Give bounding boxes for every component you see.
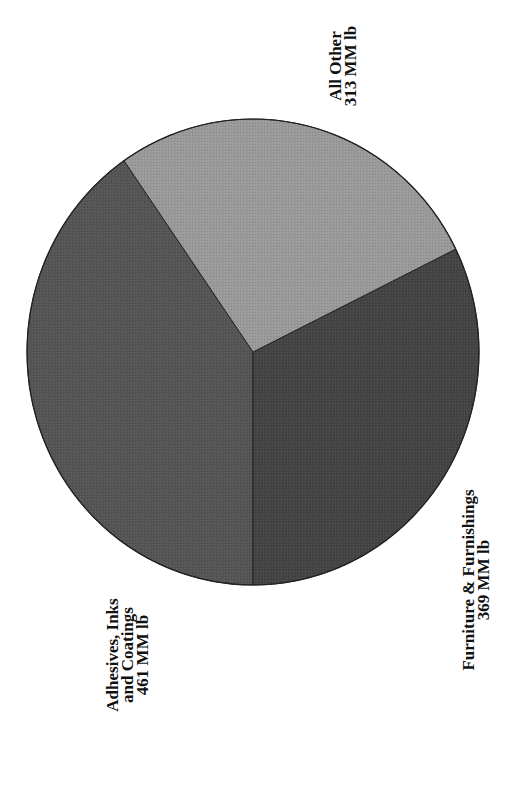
label-adhesives-value: 461 MM lb	[135, 575, 150, 735]
label-furniture: Furniture & Furnishings 369 MM lb	[461, 452, 491, 708]
label-adhesives: Adhesives, Inks and Coatings 461 MM lb	[105, 575, 150, 735]
pie-chart	[0, 0, 531, 801]
pie-outline	[27, 119, 479, 585]
label-furniture-value: 369 MM lb	[476, 452, 491, 708]
label-all-other: All Other 313 MM lb	[328, 8, 358, 124]
label-all-other-value: 313 MM lb	[343, 8, 358, 124]
